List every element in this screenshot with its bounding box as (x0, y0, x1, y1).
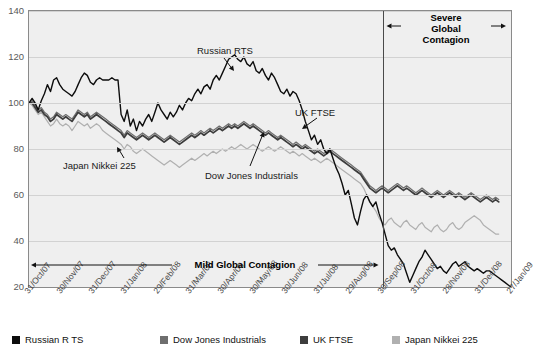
legend-item-japan-nikkei-225[interactable]: Japan Nikkei 225 (392, 334, 478, 345)
annotation-dow-jones-industrials: Dow Jones Industrials (205, 170, 298, 181)
band-label-severe: Severe Global Contagion (403, 12, 489, 45)
legend-swatch-icon (392, 336, 400, 344)
y-tick-label: 140 (0, 6, 24, 16)
chart-legend: Russian R TSDow Jones IndustrialsUK FTSE… (0, 334, 523, 356)
legend-label: Dow Jones Industrials (173, 334, 266, 345)
band-label-severe-line1: Severe (403, 12, 489, 23)
legend-swatch-icon (300, 336, 308, 344)
y-tick-label: 100 (0, 98, 24, 108)
annotation-russian-rts: Russian RTS (197, 45, 253, 56)
annotation-uk-ftse: UK FTSE (295, 107, 335, 118)
legend-item-dow-jones-industrials[interactable]: Dow Jones Industrials (160, 334, 266, 345)
band-label-mild: Mild Global Contagion (175, 259, 315, 270)
legend-item-russian-r-ts[interactable]: Russian R TS (12, 334, 83, 345)
annotation-japan-nikkei-225: Japan Nikkei 225 (63, 160, 136, 171)
y-tick-label: 60 (0, 190, 24, 200)
legend-label: UK FTSE (313, 334, 353, 345)
legend-item-uk-ftse[interactable]: UK FTSE (300, 334, 353, 345)
band-label-severe-line3: Contagion (403, 34, 489, 45)
legend-label: Russian R TS (25, 334, 83, 345)
y-tick-label: 120 (0, 52, 24, 62)
legend-swatch-icon (160, 336, 168, 344)
legend-label: Japan Nikkei 225 (405, 334, 478, 345)
y-tick-label: 80 (0, 144, 24, 154)
y-tick-label: 40 (0, 236, 24, 246)
band-label-severe-line2: Global (403, 23, 489, 34)
legend-swatch-icon (12, 336, 20, 344)
